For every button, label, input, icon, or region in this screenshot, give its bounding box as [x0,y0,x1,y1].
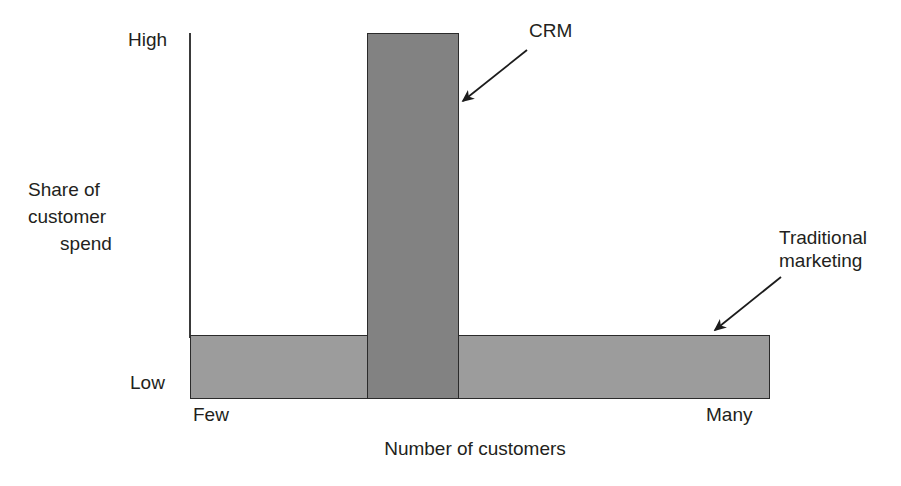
x-axis-tick-few: Few [193,404,229,426]
x-axis-title: Number of customers [0,437,901,461]
arrow-to-traditional-marketing-bar [715,277,781,330]
y-axis-tick-low: Low [130,372,165,394]
annotation-traditional-line-2: marketing [779,250,862,271]
bar-crm [367,33,459,399]
bar-traditional-marketing [190,335,770,399]
y-axis-line [189,33,191,338]
y-axis-title-line-1: Share of [28,179,100,200]
y-axis-title-line-2: customer [28,206,106,227]
annotation-traditional-marketing: Traditional marketing [779,226,867,272]
y-axis-title-line-3: spend [28,230,144,257]
arrow-to-crm-bar [463,50,527,101]
annotation-traditional-line-1: Traditional [779,227,867,248]
chart-figure: High Low Few Many Share of customer spen… [0,0,901,486]
annotation-crm: CRM [529,19,572,42]
y-axis-tick-high: High [128,29,167,51]
y-axis-title: Share of customer spend [28,176,144,257]
x-axis-tick-many: Many [706,404,752,426]
